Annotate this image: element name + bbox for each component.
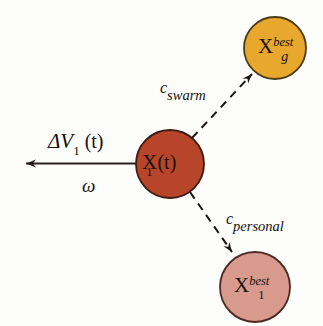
swarm-arrow-line (192, 74, 252, 138)
global-best-circle[interactable] (244, 17, 306, 79)
diagram-vector-layer (0, 0, 323, 326)
personal-best-circle[interactable] (220, 252, 290, 322)
current-particle-circle[interactable] (136, 130, 204, 198)
pso-diagram-canvas: Xbestg X1(t) Xbest1 cswarm cpersonal ΔV1… (0, 0, 323, 326)
personal-arrow-line (190, 192, 232, 252)
